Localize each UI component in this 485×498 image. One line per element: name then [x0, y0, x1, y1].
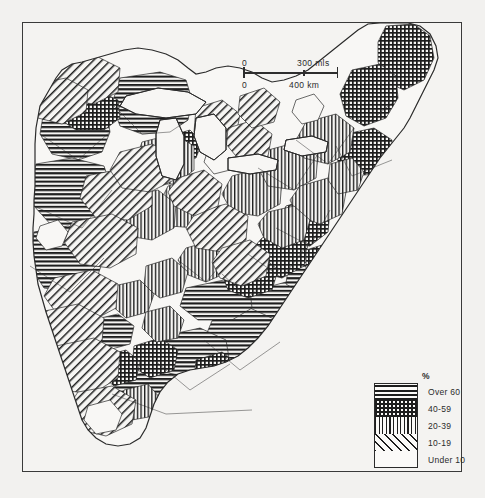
legend-item-10-19: 10-19 [374, 434, 465, 451]
legend-label-40-59: 40-59 [428, 404, 451, 414]
scale-miles-label: 300 mls [297, 58, 330, 68]
scale-zero-bottom-label: 0 [242, 80, 247, 90]
legend-item-under-10: Under 10 [374, 451, 465, 468]
legend-swatch-cross-dots [374, 400, 418, 417]
legend-unit-header: % [422, 371, 430, 381]
legend-label-10-19: 10-19 [428, 438, 451, 448]
legend-item-over-60: Over 60 [374, 383, 465, 400]
legend-swatch-vertical-lines [374, 417, 418, 434]
legend-rows: Over 60 40-59 20-39 10-19 Under 10 [374, 383, 465, 468]
scale-bar-line [243, 72, 338, 74]
legend-label-20-39: 20-39 [428, 421, 451, 431]
legend-item-20-39: 20-39 [374, 417, 465, 434]
legend-swatch-blank [374, 451, 418, 468]
legend-swatch-diagonal-hatch [374, 434, 418, 451]
scale-bar: 0 300 mls 0 400 km [243, 58, 338, 92]
scale-tick-middle [303, 70, 305, 76]
legend-swatch-horizontal-lines [374, 383, 418, 400]
legend-label-under-10: Under 10 [428, 455, 465, 465]
map-page: 0 300 mls 0 400 km % Over 60 40-59 20-39 [0, 0, 485, 498]
legend-label-over-60: Over 60 [428, 387, 460, 397]
scale-tick-end [337, 67, 339, 78]
legend-item-40-59: 40-59 [374, 400, 465, 417]
scale-km-label: 400 km [289, 80, 319, 90]
scale-tick-start [243, 67, 245, 78]
